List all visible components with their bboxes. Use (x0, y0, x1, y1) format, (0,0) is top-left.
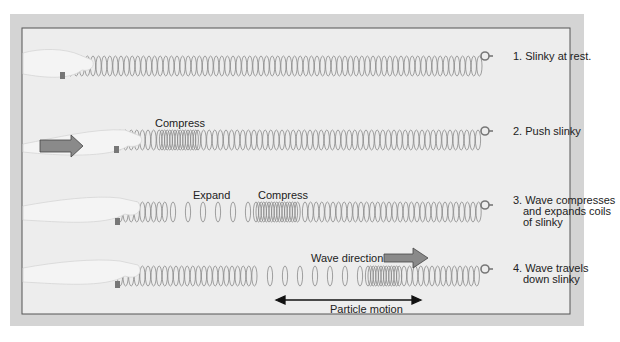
caption-line: down slinky (513, 274, 588, 285)
step-4-caption: 4. Wave travels down slinky (513, 263, 588, 285)
step-1-caption: 1. Slinky at rest. (513, 51, 591, 62)
caption-line: 2. Push slinky (513, 126, 581, 137)
step-3-caption: 3. Wave compresses and expands coils of … (513, 195, 615, 228)
caption-line: of slinky (513, 217, 615, 228)
particle-motion-label: Particle motion (330, 303, 403, 316)
wave-direction-label: Wave direction (311, 252, 383, 265)
compress-label-row3: Compress (258, 189, 308, 202)
expand-label: Expand (193, 189, 230, 202)
compress-label-row2: Compress (155, 117, 205, 130)
step-2-caption: 2. Push slinky (513, 126, 581, 137)
caption-line: 1. Slinky at rest. (513, 51, 591, 62)
